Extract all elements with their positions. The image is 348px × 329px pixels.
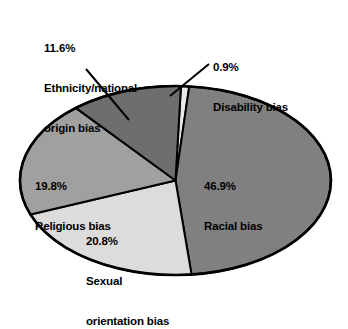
label-disability-line1: Disability bias — [213, 101, 288, 114]
label-racial-percent: 46.9% — [204, 180, 262, 193]
label-racial-line1: Racial bias — [204, 220, 262, 233]
label-ethnicity-line2: origin bias — [44, 122, 137, 135]
label-disability-bias: 0.9% Disability bias — [213, 35, 288, 141]
label-sexual-line2: orientation bias — [86, 315, 169, 328]
label-sexual-percent: 20.8% — [86, 235, 169, 248]
label-ethnicity-national-origin-bias: 11.6% Ethnicity/national origin bias — [44, 16, 137, 161]
label-ethnicity-percent: 11.6% — [44, 42, 137, 55]
label-religious-percent: 19.8% — [35, 180, 111, 193]
label-disability-percent: 0.9% — [213, 61, 288, 74]
label-racial-bias: 46.9% Racial bias — [204, 154, 262, 260]
label-sexual-line1: Sexual — [86, 275, 169, 288]
label-sexual-orientation-bias: 20.8% Sexual orientation bias — [86, 209, 169, 329]
label-ethnicity-line1: Ethnicity/national — [44, 82, 137, 95]
